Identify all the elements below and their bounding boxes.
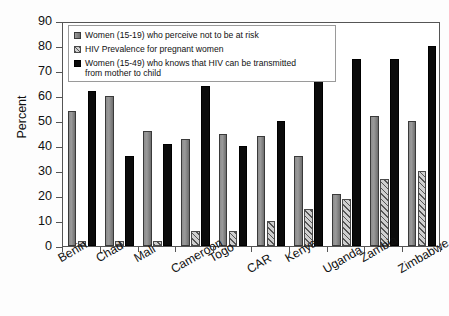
y-axis-tick-mark — [56, 72, 62, 73]
bar-togo-series-2 — [239, 146, 248, 246]
bar-benin-series-0 — [68, 111, 77, 246]
bar-mali-series-2 — [163, 144, 172, 247]
x-axis-tick-mark — [440, 247, 441, 252]
y-axis-tick-mark — [56, 172, 62, 173]
bar-chad-series-0 — [105, 96, 114, 246]
y-axis-tick-label: 80 — [0, 41, 52, 51]
chart-legend: Women (15-19) who perceive not to be at … — [68, 25, 336, 82]
bar-zimbabwe-series-1 — [418, 171, 427, 246]
bar-benin-series-2 — [88, 91, 97, 246]
y-axis-tick-label: 40 — [0, 141, 52, 151]
legend-item-1: HIV Prevalence for pregnant women — [74, 44, 330, 54]
y-axis-tick-mark — [56, 47, 62, 48]
bar-car-series-0 — [257, 136, 266, 246]
y-axis-tick-label: 50 — [0, 116, 52, 126]
x-axis-label-car: CAR — [244, 251, 273, 276]
legend-swatch-hiv-prevalence — [74, 46, 81, 53]
x-axis-tick-mark — [251, 247, 252, 252]
y-axis-tick-label: 70 — [0, 66, 52, 76]
y-axis-tick-mark — [56, 122, 62, 123]
y-axis-tick-mark — [56, 97, 62, 98]
bar-cameroon-series-0 — [181, 139, 190, 247]
legend-label-2: Women (15-49) who knows that HIV can be … — [85, 58, 296, 78]
legend-swatch-knows-mtct — [74, 60, 81, 67]
legend-item-2: Women (15-49) who knows that HIV can be … — [74, 58, 330, 78]
bar-kenya-series-0 — [294, 156, 303, 246]
x-axis-tick-mark — [327, 247, 328, 252]
legend-item-0: Women (15-19) who perceive not to be at … — [74, 30, 330, 40]
x-axis-tick-mark — [402, 247, 403, 252]
y-axis-tick-label: 10 — [0, 216, 52, 226]
bar-uganda-series-1 — [342, 199, 351, 247]
bar-togo-series-0 — [219, 134, 228, 247]
bar-uganda-series-2 — [352, 59, 361, 247]
bar-zambia-series-0 — [370, 116, 379, 246]
bar-kenya-series-2 — [314, 71, 323, 246]
bar-zimbabwe-series-2 — [428, 46, 437, 246]
legend-label-1: HIV Prevalence for pregnant women — [85, 44, 224, 54]
y-axis-tick-label: 20 — [0, 191, 52, 201]
bar-car-series-2 — [277, 121, 286, 246]
y-axis-tick-labels: 0102030405060708090 — [0, 0, 58, 316]
y-axis-tick-mark — [56, 222, 62, 223]
y-axis-tick-label: 0 — [0, 241, 52, 251]
y-axis-tick-mark — [56, 197, 62, 198]
y-axis-tick-label: 90 — [0, 16, 52, 26]
bar-mali-series-1 — [153, 241, 162, 246]
y-axis-tick-label: 30 — [0, 166, 52, 176]
y-axis-tick-mark — [56, 22, 62, 23]
bar-chart: Percent 0102030405060708090 Women (15-19… — [0, 0, 449, 316]
legend-swatch-perceive-not-at-risk — [74, 32, 81, 39]
bar-zimbabwe-series-0 — [408, 121, 417, 246]
x-axis-tick-mark — [175, 247, 176, 252]
bar-car-series-1 — [267, 221, 276, 246]
bar-chad-series-2 — [125, 156, 134, 246]
bar-mali-series-0 — [143, 131, 152, 246]
bar-zambia-series-2 — [390, 59, 399, 247]
y-axis-tick-label: 60 — [0, 91, 52, 101]
bar-uganda-series-0 — [332, 194, 341, 247]
bar-cameroon-series-1 — [191, 231, 200, 246]
bar-cameroon-series-2 — [201, 86, 210, 246]
legend-label-0: Women (15-19) who perceive not to be at … — [85, 30, 259, 40]
y-axis-tick-mark — [56, 147, 62, 148]
